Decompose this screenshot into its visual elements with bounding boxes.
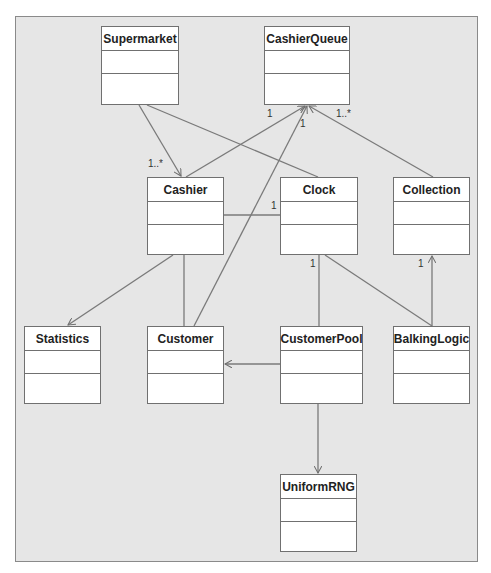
class-customer[interactable]: Customer	[147, 326, 224, 404]
class-name: Statistics	[25, 327, 100, 351]
operations-compartment	[148, 374, 223, 403]
operations-compartment	[281, 522, 356, 551]
multiplicity-cashier-cashierqueue: 1	[267, 108, 273, 119]
operations-compartment	[25, 374, 100, 403]
class-name: Cashier	[148, 178, 223, 202]
class-name: CustomerPool	[281, 327, 362, 351]
attributes-compartment	[394, 351, 469, 374]
attributes-compartment	[25, 351, 100, 374]
multiplicity-customer-cashierqueue: 1	[300, 118, 306, 129]
diagram-canvas	[15, 16, 478, 562]
class-name: BalkingLogic	[394, 327, 469, 351]
operations-compartment	[394, 374, 469, 403]
class-supermarket[interactable]: Supermarket	[101, 26, 179, 105]
attributes-compartment	[281, 351, 362, 374]
multiplicity-supermarket-cashier: 1..*	[148, 158, 163, 169]
class-name: UniformRNG	[281, 475, 356, 499]
attributes-compartment	[281, 499, 356, 522]
multiplicity-collection-cashierqueue: 1..*	[336, 108, 351, 119]
operations-compartment	[281, 374, 362, 403]
multiplicity-balkinglogic-collection: 1	[418, 258, 424, 269]
operations-compartment	[281, 225, 357, 254]
attributes-compartment	[148, 351, 223, 374]
attributes-compartment	[281, 202, 357, 225]
class-cashierqueue[interactable]: CashierQueue	[264, 26, 350, 105]
class-name: Supermarket	[102, 27, 178, 51]
attributes-compartment	[102, 51, 178, 74]
class-name: Collection	[394, 178, 469, 202]
class-balkinglogic[interactable]: BalkingLogic	[393, 326, 470, 404]
class-customerpool[interactable]: CustomerPool	[280, 326, 363, 404]
attributes-compartment	[148, 202, 223, 225]
attributes-compartment	[394, 202, 469, 225]
class-collection[interactable]: Collection	[393, 177, 470, 255]
attributes-compartment	[265, 51, 349, 74]
operations-compartment	[265, 74, 349, 104]
operations-compartment	[148, 225, 223, 254]
operations-compartment	[102, 74, 178, 104]
class-statistics[interactable]: Statistics	[24, 326, 101, 404]
class-clock[interactable]: Clock	[280, 177, 358, 255]
class-name: Clock	[281, 178, 357, 202]
multiplicity-cashier-clock: 1	[271, 200, 277, 211]
multiplicity-clock-customerpool: 1	[310, 258, 316, 269]
class-name: CashierQueue	[265, 27, 349, 51]
operations-compartment	[394, 225, 469, 254]
class-uniformrng[interactable]: UniformRNG	[280, 474, 357, 552]
class-cashier[interactable]: Cashier	[147, 177, 224, 255]
class-name: Customer	[148, 327, 223, 351]
